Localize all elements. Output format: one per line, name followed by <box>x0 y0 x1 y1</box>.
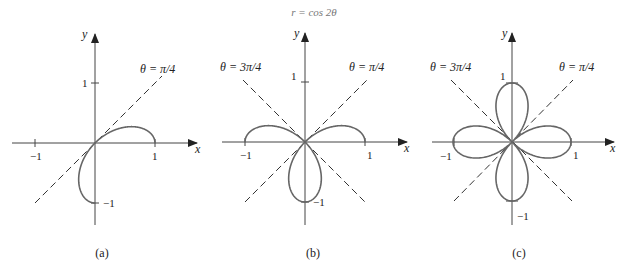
label-y-neg: −1 <box>103 197 115 209</box>
label-x-neg: −1 <box>440 150 452 162</box>
line-label-pi-over-4: θ = π/4 <box>349 60 384 74</box>
caption-b: (b) <box>306 246 320 260</box>
panel-c: −1 1 1 −1 x y θ = 3π/4 θ = π/4 (c) <box>430 26 616 260</box>
polar-rose-figure: r = cos 2θ −1 1 1 −1 x y θ = π/4 (a) −1 … <box>0 0 629 269</box>
label-y-pos: 1 <box>291 70 297 82</box>
line-label-3pi-over-4: θ = 3π/4 <box>430 60 471 74</box>
line-label-pi-over-4: θ = π/4 <box>140 62 175 76</box>
rose-curve-partial-a <box>79 127 155 203</box>
label-y-pos: 1 <box>500 70 506 82</box>
x-axis-label: x <box>609 141 616 155</box>
figure-title: r = cos 2θ <box>291 6 337 18</box>
label-y-pos: 1 <box>82 77 88 89</box>
label-x-neg: −1 <box>30 150 42 162</box>
panel-b: −1 1 1 −1 x y θ = 3π/4 θ = π/4 (b) <box>220 26 410 260</box>
x-axis-label: x <box>403 141 410 155</box>
y-axis-label: y <box>501 26 508 40</box>
line-label-3pi-over-4: θ = 3π/4 <box>220 60 261 74</box>
label-x-pos: 1 <box>573 149 579 161</box>
x-axis-label: x <box>194 142 201 156</box>
caption-c: (c) <box>512 246 525 260</box>
label-y-neg: −1 <box>517 210 529 222</box>
label-y-neg: −1 <box>313 196 325 208</box>
y-axis-label: y <box>81 27 88 41</box>
label-x-pos: 1 <box>367 149 373 161</box>
y-axis-label: y <box>293 26 300 40</box>
caption-a: (a) <box>95 246 108 260</box>
label-x-pos: 1 <box>152 150 158 162</box>
label-x-neg: −1 <box>240 149 252 161</box>
line-label-pi-over-4: θ = π/4 <box>559 60 594 74</box>
panel-a: −1 1 1 −1 x y θ = π/4 (a) <box>12 27 201 260</box>
